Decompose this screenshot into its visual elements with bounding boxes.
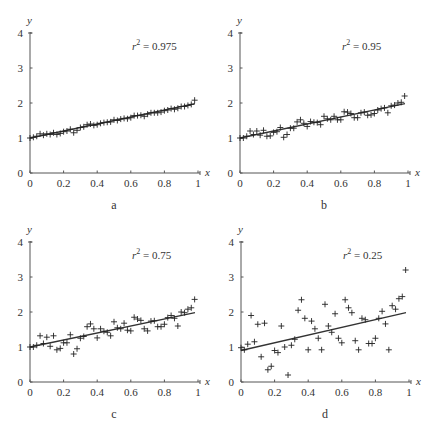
x-tick-label: 0.6: [124, 386, 138, 398]
r-squared-annotation: r2 = 0.95: [342, 38, 382, 52]
data-point: [27, 135, 33, 141]
data-point: [255, 321, 261, 327]
x-tick-label: 0.6: [124, 177, 138, 189]
data-point: [315, 335, 321, 341]
x-axis-label: x: [415, 375, 421, 387]
y-tick-label: 0: [18, 167, 24, 179]
x-tick-label: 0: [27, 177, 33, 189]
data-point: [40, 341, 46, 347]
data-point: [285, 372, 291, 378]
data-point: [165, 107, 171, 113]
r-squared-value: = 0.25: [351, 249, 382, 261]
y-tick-label: 3: [18, 271, 24, 283]
r-squared-annotation: r2 = 0.25: [343, 247, 383, 261]
x-tick-label: 0.2: [268, 386, 282, 398]
data-point: [175, 323, 181, 329]
data-point: [278, 323, 284, 329]
data-point: [118, 326, 124, 332]
data-point: [319, 347, 325, 353]
data-point: [124, 327, 130, 333]
data-point: [161, 108, 167, 114]
data-point: [54, 347, 60, 353]
y-tick-label: 1: [229, 341, 235, 353]
data-point: [44, 131, 50, 137]
y-tick-label: 3: [228, 62, 234, 74]
data-point: [182, 104, 188, 110]
y-tick-label: 1: [18, 341, 24, 353]
data-point: [57, 345, 63, 351]
data-point: [128, 328, 134, 334]
data-point: [339, 340, 345, 346]
data-point: [371, 111, 377, 117]
data-point: [328, 117, 334, 123]
data-point: [37, 333, 43, 339]
data-point: [281, 134, 287, 140]
data-point: [94, 122, 100, 128]
data-point: [111, 319, 117, 325]
data-point: [372, 335, 378, 341]
panel-label: b: [321, 198, 327, 212]
x-tick-label: 0.8: [368, 177, 382, 189]
y-tick-label: 4: [18, 236, 24, 248]
x-tick-label: 0.4: [90, 177, 104, 189]
data-point: [254, 128, 260, 134]
data-point: [91, 326, 97, 332]
x-tick-label: 0.4: [301, 386, 315, 398]
data-point: [346, 305, 352, 311]
data-point: [356, 347, 362, 353]
data-point: [309, 318, 315, 324]
y-tick-label: 2: [18, 97, 24, 109]
data-point: [64, 340, 70, 346]
data-point: [192, 296, 198, 302]
x-tick-label: 0.8: [369, 386, 383, 398]
data-point: [188, 305, 194, 311]
x-tick-label: 0: [27, 386, 33, 398]
panel-label: d: [322, 407, 328, 421]
panel-c: 00.20.40.60.8101234xyr2 = 0.75c: [18, 223, 211, 421]
data-point: [265, 367, 271, 373]
x-tick-label: 0.2: [267, 177, 281, 189]
data-point: [188, 101, 194, 107]
x-tick-label: 0.8: [158, 177, 172, 189]
x-tick-label: 0.6: [335, 386, 349, 398]
x-tick-label: 0: [237, 177, 243, 189]
x-tick-label: 1: [195, 177, 201, 189]
y-tick-label: 0: [228, 167, 234, 179]
data-point: [258, 354, 264, 360]
y-axis-label: y: [236, 14, 242, 26]
data-point: [87, 321, 93, 327]
x-tick-label: 1: [195, 386, 201, 398]
data-point: [91, 122, 97, 128]
data-point: [335, 335, 341, 341]
data-point: [185, 102, 191, 108]
x-tick-label: 0.2: [57, 386, 71, 398]
data-point: [369, 341, 375, 347]
data-point: [322, 301, 328, 307]
data-point: [267, 133, 273, 139]
data-point: [345, 109, 351, 115]
y-tick-label: 1: [228, 132, 234, 144]
data-point: [312, 326, 318, 332]
data-point: [288, 342, 294, 348]
data-point: [332, 311, 338, 317]
x-tick-label: 0.8: [158, 386, 172, 398]
data-point: [268, 363, 274, 369]
data-point: [389, 303, 395, 309]
data-point: [385, 110, 391, 116]
x-tick-label: 0.2: [57, 177, 71, 189]
r-squared-value: = 0.75: [140, 249, 171, 261]
data-point: [71, 351, 77, 357]
data-point: [262, 320, 268, 326]
data-point: [325, 323, 331, 329]
data-point: [248, 313, 254, 319]
data-point: [352, 338, 358, 344]
data-point: [151, 318, 157, 324]
data-point: [388, 103, 394, 109]
y-tick-label: 2: [228, 97, 234, 109]
x-axis-label: x: [204, 166, 210, 178]
y-tick-label: 4: [229, 236, 235, 248]
data-point: [386, 347, 392, 353]
data-point: [138, 112, 144, 118]
data-point: [67, 332, 73, 338]
r-squared-annotation: r2 = 0.975: [132, 38, 177, 52]
